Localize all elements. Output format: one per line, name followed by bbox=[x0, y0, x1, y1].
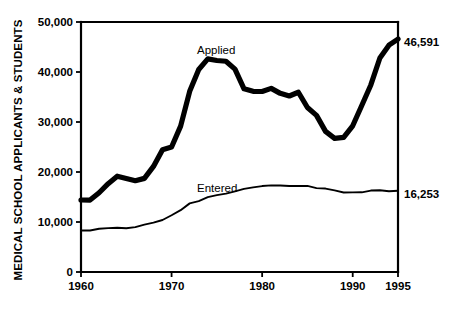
y-axis-tick-label: 40,000 bbox=[38, 66, 73, 78]
entered-series-label: Entered bbox=[197, 182, 237, 194]
y-axis-tick-label: 50,000 bbox=[38, 16, 73, 28]
entered-end-value-label: 16,253 bbox=[404, 188, 439, 200]
y-axis-tick-label: 20,000 bbox=[38, 166, 73, 178]
x-axis-tick-label: 1990 bbox=[340, 280, 366, 292]
y-axis-tick-label: 10,000 bbox=[38, 216, 73, 228]
x-axis-tick-label: 1960 bbox=[68, 280, 94, 292]
line-chart: 010,00020,00030,00040,00050,000 19601970… bbox=[0, 0, 467, 310]
applied-series-label: Applied bbox=[197, 44, 235, 56]
x-axis-tick-label: 1980 bbox=[249, 280, 275, 292]
x-axis-tick-label: 1970 bbox=[159, 280, 185, 292]
x-axis-tick-label: 1995 bbox=[385, 280, 411, 292]
y-axis-tick-label: 30,000 bbox=[38, 116, 73, 128]
applied-end-value-label: 46,591 bbox=[404, 36, 440, 48]
y-axis-tick-label: 0 bbox=[67, 266, 73, 278]
chart-container: 010,00020,00030,00040,00050,000 19601970… bbox=[0, 0, 467, 310]
y-axis-title: MEDICAL SCHOOL APPLICANTS & STUDENTS bbox=[12, 19, 24, 280]
